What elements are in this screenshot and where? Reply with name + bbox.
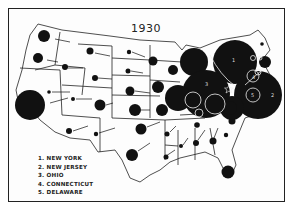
circle-iowa (152, 81, 164, 93)
circle-kentucky (194, 122, 200, 128)
legend-item: 4. CONNECTICUT (38, 180, 93, 189)
circle-wisconsin (168, 65, 178, 75)
maine-marker (260, 42, 264, 46)
circle-south-dakota (126, 69, 131, 74)
circle-nevada (47, 90, 51, 94)
label-5: 5 (251, 92, 254, 98)
circle-nebraska (126, 87, 135, 96)
circle-idaho (62, 64, 68, 70)
legend-item: 2. NEW JERSEY (38, 163, 93, 172)
label-3: 3 (205, 81, 208, 87)
circle-south-carolina (224, 133, 228, 137)
label-1: 1 (232, 57, 235, 63)
legend-item: 3. OHIO (38, 171, 93, 180)
circle-wyoming (92, 75, 98, 81)
circle-minnesota (149, 57, 158, 66)
circle-massachusetts (259, 56, 271, 68)
legend-item: 5. DELAWARE (38, 188, 93, 197)
legend-item: 1. NEW YORK (38, 154, 93, 163)
label-4: 4 (252, 74, 255, 80)
circle-utah (71, 97, 75, 101)
circle-arkansas (165, 132, 170, 137)
map-title: 1930 (131, 22, 161, 35)
circle-illinois (165, 85, 191, 111)
circle-georgia (210, 138, 217, 145)
circle-kansas (129, 104, 141, 116)
circle-new-mexico (94, 132, 98, 136)
circle-florida (222, 166, 235, 179)
circle-california (15, 90, 45, 120)
circle-washington (38, 30, 50, 42)
legend: 1. NEW YORK 2. NEW JERSEY 3. OHIO 4. CON… (38, 154, 93, 197)
circle-north-dakota (127, 50, 131, 54)
circle-mississippi (179, 144, 183, 148)
circle-missouri (156, 104, 168, 116)
label-2: 2 (271, 92, 274, 98)
circle-montana (87, 48, 94, 55)
circle-alabama (193, 140, 199, 146)
circle-arizona (66, 128, 72, 134)
circle-oregon (33, 53, 43, 63)
circle-colorado (95, 100, 106, 111)
circle-texas (126, 149, 138, 161)
circle-oklahoma (136, 124, 147, 135)
